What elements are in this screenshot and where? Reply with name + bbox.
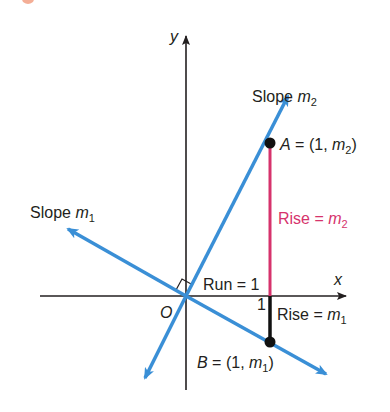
slope-diagram: y x O 1 Slope m2 Slope m1 A = (1, m2) B … [0,0,390,412]
point-a [265,138,276,149]
point-b [265,337,276,348]
line-m1-upper [68,229,186,296]
point-a-label: A = (1, m2) [279,136,357,156]
run-label: Run = 1 [203,276,260,293]
line-m2 [186,96,288,296]
rise-m1-label: Rise = m1 [277,306,347,326]
point-b-label: B = (1, m1) [197,354,274,374]
rise-m2-label: Rise = m2 [278,210,348,230]
origin-label: O [160,304,172,321]
x-axis-label: x [333,271,343,288]
x-tick-label: 1 [257,296,266,313]
y-axis-label: y [169,28,179,45]
slope-m1-label: Slope m1 [30,204,95,224]
